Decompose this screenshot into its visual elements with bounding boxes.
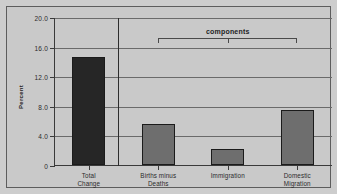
bracket-tick-left	[158, 38, 159, 43]
y-axis-tick	[50, 77, 55, 78]
y-axis-title: Percent	[18, 85, 24, 109]
bar	[281, 110, 314, 165]
y-axis-tick-label: 20.0	[35, 15, 48, 22]
y-axis-tick-label: 8.0	[38, 103, 48, 110]
y-axis-tick	[50, 166, 55, 167]
y-axis-tick	[50, 18, 55, 19]
y-axis-tick	[50, 136, 55, 137]
y-axis-tick-label: 4.0	[38, 133, 48, 140]
bar	[72, 57, 105, 165]
gridline	[54, 18, 332, 19]
group-separator-line	[118, 18, 119, 166]
bar	[142, 124, 175, 165]
y-axis-tick	[50, 107, 55, 108]
y-axis-tick-label: 12.0	[35, 74, 48, 81]
plot-area: 04.08.012.016.020.0 Total ChangeBirths m…	[54, 18, 332, 166]
x-axis-tick-label: Total Change	[57, 172, 121, 188]
gridline	[54, 48, 332, 49]
x-axis-tick	[228, 165, 229, 170]
x-axis-tick	[158, 165, 159, 170]
x-axis-tick-label: Domestic Migration	[265, 172, 329, 188]
bracket-tick-right	[296, 38, 297, 43]
bracket-tick-middle	[228, 38, 229, 43]
x-axis-tick	[297, 165, 298, 170]
bar	[211, 149, 244, 165]
y-axis-line	[54, 18, 55, 166]
x-axis-tick-label: Immigration	[196, 172, 260, 180]
x-axis-line	[54, 165, 332, 166]
y-axis-tick-label: 16.0	[35, 44, 48, 51]
chart-figure: Percent 04.08.012.016.020.0 Total Change…	[0, 0, 337, 194]
x-axis-tick	[89, 165, 90, 170]
y-axis-tick-label: 0	[44, 163, 48, 170]
chart-frame: Percent 04.08.012.016.020.0 Total Change…	[6, 6, 331, 188]
bracket-label: components	[206, 28, 250, 35]
x-axis-tick-label: Births minus Deaths	[126, 172, 190, 188]
y-axis-tick	[50, 48, 55, 49]
